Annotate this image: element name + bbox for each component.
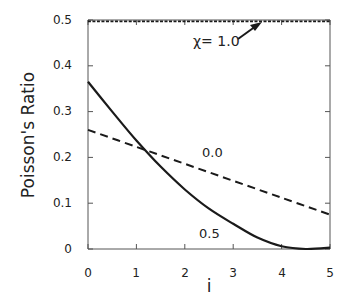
- x-tick-4: 4: [278, 266, 286, 280]
- x-tick-2: 2: [181, 266, 189, 280]
- y-axis-title: Poisson's Ratio: [18, 72, 38, 198]
- label-chi-0.0: 0.0: [202, 145, 223, 160]
- x-tick-3: 3: [229, 266, 237, 280]
- arrow-icon: [238, 22, 262, 39]
- annotations: χ= 1.0 0.0 0.5: [193, 22, 262, 241]
- y-tick-0.4: 0.4: [53, 58, 72, 72]
- y-tick-0.3: 0.3: [53, 104, 72, 118]
- plot-frame: [88, 20, 330, 249]
- series-chi-0.0: [88, 130, 330, 215]
- y-tick-0.2: 0.2: [53, 150, 72, 164]
- label-chi-1.0: χ= 1.0: [193, 33, 240, 49]
- y-tick-labels: 0 0.1 0.2 0.3 0.4 0.5: [53, 13, 72, 256]
- axis-ticks: [88, 20, 330, 249]
- y-tick-0.1: 0.1: [53, 196, 72, 210]
- y-tick-0.5: 0.5: [53, 13, 72, 27]
- y-tick-0: 0: [64, 242, 72, 256]
- series-chi-0.5: [88, 82, 330, 249]
- x-tick-5: 5: [326, 266, 334, 280]
- label-chi-0.5: 0.5: [199, 226, 220, 241]
- poisson-ratio-chart: 0 0.1 0.2 0.3 0.4 0.5 0 1 2 3 4 5 Poisso…: [0, 0, 351, 306]
- series-lines: [88, 21, 330, 249]
- x-tick-0: 0: [84, 266, 92, 280]
- x-axis-title: i: [207, 276, 212, 296]
- x-tick-1: 1: [132, 266, 140, 280]
